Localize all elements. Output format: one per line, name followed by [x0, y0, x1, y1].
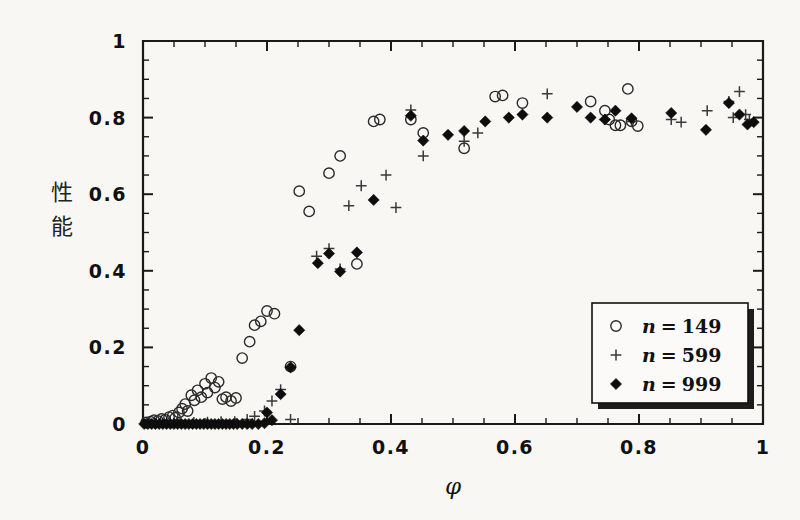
data-point-circle [324, 168, 334, 178]
chart-legend: n=149n=599n=999 [592, 303, 754, 409]
data-point-diamond [734, 109, 745, 120]
legend-label: n=149 [642, 315, 721, 337]
data-point-diamond [666, 107, 677, 118]
x-axis-title: φ [445, 473, 462, 499]
data-point-diamond [405, 110, 416, 121]
data-point-circle [623, 84, 633, 94]
data-point-diamond [700, 124, 711, 135]
data-point-diamond [480, 116, 491, 127]
data-point-circle [517, 98, 527, 108]
data-point-circle [304, 206, 314, 216]
x-tick-label: 0 [136, 436, 151, 458]
x-tick-label: 0.4 [372, 436, 410, 458]
data-point-diamond [294, 325, 305, 336]
data-point-diamond [599, 114, 610, 125]
data-point-diamond [442, 129, 453, 140]
data-point-plus [381, 170, 392, 181]
data-point-circle [585, 96, 595, 106]
x-tick-label: 0.6 [496, 436, 534, 458]
data-point-circle [294, 186, 304, 196]
data-point-circle [497, 90, 507, 100]
data-point-diamond [459, 125, 470, 136]
data-point-diamond [312, 258, 323, 269]
data-point-diamond [368, 194, 379, 205]
data-point-diamond [723, 97, 734, 108]
legend-label: n=599 [642, 344, 721, 366]
data-point-plus [676, 117, 687, 128]
data-point-plus [343, 200, 354, 211]
y-tick-label: 0.2 [89, 336, 127, 358]
data-point-diamond [335, 266, 346, 277]
data-point-diamond [517, 109, 528, 120]
y-tick-label: 0 [112, 413, 127, 435]
data-point-plus [702, 105, 713, 116]
data-point-plus [418, 151, 429, 162]
y-axis-title-char: 能 [51, 214, 73, 239]
data-point-diamond [542, 112, 553, 123]
data-point-diamond [323, 248, 334, 259]
figure-container: 00.20.40.60.8100.20.40.60.81φ性能 n=149n=5… [0, 0, 800, 520]
data-point-diamond [626, 113, 637, 124]
y-tick-label: 0.6 [89, 183, 127, 205]
data-point-plus [267, 396, 278, 407]
data-point-plus [734, 86, 745, 97]
x-tick-label: 0.8 [620, 436, 658, 458]
data-point-circle [352, 259, 362, 269]
x-tick-label: 0.2 [248, 436, 286, 458]
data-point-plus [356, 180, 367, 191]
data-point-circle [375, 114, 385, 124]
series-0 [141, 84, 643, 428]
legend-label: n=999 [642, 373, 721, 395]
x-tick-label: 1 [756, 436, 771, 458]
data-point-diamond [503, 112, 514, 123]
data-point-plus [391, 202, 402, 213]
data-point-plus [542, 88, 553, 99]
y-axis-title-char: 性 [51, 180, 73, 205]
data-point-diamond [571, 101, 582, 112]
scatter-plot: 00.20.40.60.8100.20.40.60.81φ性能 n=149n=5… [0, 0, 800, 520]
data-point-diamond [585, 112, 596, 123]
data-point-plus [472, 128, 483, 139]
y-tick-label: 1 [112, 30, 127, 52]
y-tick-label: 0.8 [89, 107, 127, 129]
data-point-circle [244, 336, 254, 346]
data-point-circle [335, 151, 345, 161]
data-point-diamond [351, 247, 362, 258]
data-point-circle [368, 116, 378, 126]
y-tick-label: 0.4 [89, 260, 127, 282]
data-point-circle [237, 353, 247, 363]
